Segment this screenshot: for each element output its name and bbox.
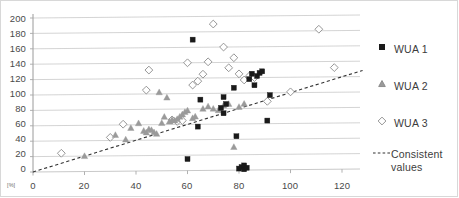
- legend-label-wua-3: WUA 3: [394, 117, 428, 129]
- x-tick-label: 20: [69, 180, 99, 191]
- data-point: [330, 64, 338, 72]
- data-point: [161, 114, 167, 120]
- legend-marker-diamond-icon: [378, 117, 386, 125]
- y-tick-label: 100: [0, 88, 26, 99]
- y-tick-label: 60: [0, 118, 26, 129]
- data-point: [244, 165, 249, 170]
- data-point: [209, 20, 217, 28]
- data-point: [220, 43, 228, 51]
- data-point: [234, 134, 239, 139]
- data-point: [236, 104, 242, 110]
- data-point: [81, 153, 87, 159]
- gridline-y-80: [33, 107, 360, 110]
- data-point: [224, 102, 229, 107]
- data-point: [123, 136, 129, 142]
- gridline-y-0: [33, 169, 360, 172]
- data-point: [221, 95, 226, 100]
- y-tick-label: 200: [0, 13, 26, 24]
- data-point: [252, 83, 257, 88]
- x-tick-label: 0: [18, 180, 48, 191]
- y-tick-label: 0: [0, 163, 26, 174]
- data-point: [265, 118, 270, 123]
- data-point: [142, 86, 150, 94]
- data-point: [247, 77, 252, 82]
- data-point: [235, 70, 243, 78]
- data-point: [230, 54, 238, 62]
- data-point: [184, 59, 192, 67]
- data-point: [249, 71, 254, 76]
- data-point: [128, 125, 134, 131]
- x-tick-label: 120: [327, 180, 357, 191]
- data-point: [205, 103, 211, 109]
- legend-label-consistent-values: Consistent values: [391, 148, 459, 173]
- data-point: [164, 94, 170, 100]
- x-tick-label: 80: [224, 180, 254, 191]
- legend-label-wua-2: WUA 2: [394, 80, 428, 92]
- data-point: [135, 120, 141, 126]
- gridline-y-40: [33, 138, 360, 141]
- y-tick-label: 120: [0, 73, 26, 84]
- gridline-y-20: [33, 154, 360, 157]
- data-point: [198, 97, 203, 102]
- data-point: [156, 89, 162, 95]
- y-tick-label: 80: [0, 103, 26, 114]
- data-point: [145, 66, 153, 74]
- gridline-y-200: [33, 15, 360, 18]
- series-wua-1: [185, 37, 272, 172]
- data-point: [199, 70, 207, 78]
- data-point: [225, 64, 233, 72]
- data-point: [267, 93, 272, 98]
- data-point: [263, 97, 271, 105]
- data-point: [231, 144, 237, 150]
- y-tick-label: 140: [0, 58, 26, 69]
- legend-marker-square-icon: [380, 45, 385, 50]
- legend-marker-triangle-icon: [379, 81, 386, 87]
- data-point: [231, 85, 236, 90]
- data-point: [221, 111, 226, 116]
- data-point: [241, 101, 247, 107]
- data-point: [185, 157, 190, 162]
- data-point: [260, 69, 265, 74]
- y-tick-label: 20: [0, 148, 26, 159]
- data-point: [315, 25, 323, 33]
- gridline-y-100: [33, 92, 360, 95]
- y-tick-label: 180: [0, 28, 26, 39]
- data-point: [204, 58, 212, 66]
- data-point: [159, 120, 165, 126]
- data-point: [287, 88, 295, 96]
- series-wua-3: [57, 20, 338, 157]
- x-tick-label: 60: [172, 180, 202, 191]
- data-point: [112, 132, 118, 138]
- gridline-y-180: [33, 30, 360, 33]
- gridline-y-160: [33, 46, 360, 49]
- y-tick-label: 40: [0, 133, 26, 144]
- x-axis-unit-label: [%]: [7, 182, 15, 188]
- x-tick-label: 40: [121, 180, 151, 191]
- data-point: [195, 124, 200, 129]
- x-tick-label: 100: [275, 180, 305, 191]
- legend-label-wua-1: WUA 1: [394, 43, 428, 55]
- data-point: [119, 120, 127, 128]
- gridline-y-140: [33, 61, 360, 64]
- data-point: [218, 105, 223, 110]
- data-point: [190, 37, 195, 42]
- scatter-chart-figure: 200 180 160 140 120 100 80 60 40 20 0 [%…: [0, 0, 459, 198]
- y-tick-label: 160: [0, 43, 26, 54]
